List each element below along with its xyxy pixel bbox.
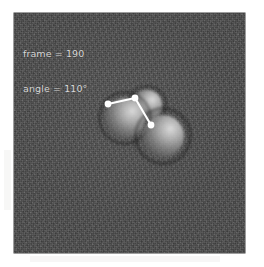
overlay-text-frame: frame = 190: [23, 48, 87, 60]
marker-arm-a-end: [105, 101, 112, 108]
overlay-text-angle: angle = 110°: [23, 83, 87, 95]
angle-arm-a: [108, 98, 135, 104]
paper-smudge-left: [4, 150, 11, 210]
overlay-text-block: frame = 190 angle = 110°: [23, 25, 87, 117]
figure-root: frame = 190 angle = 110°: [0, 0, 264, 267]
paper-smudge-bottom: [30, 256, 220, 262]
micrograph-panel: frame = 190 angle = 110°: [14, 13, 245, 253]
marker-arm-b-end: [148, 122, 155, 129]
angle-arm-b: [135, 98, 151, 125]
marker-vertex: [132, 95, 139, 102]
